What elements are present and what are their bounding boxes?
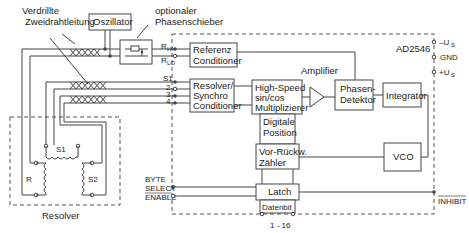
svg-text:Integrator: Integrator	[386, 90, 427, 101]
resolver-label: Resolver	[42, 210, 80, 221]
svg-text:Vor-Rückw.: Vor-Rückw.	[259, 146, 307, 157]
resolver-to-digital-diagram: S1 R S2 Resolver Oszillator Verdrillte Z…	[0, 0, 469, 233]
svg-text:–U: –U	[439, 38, 449, 47]
svg-text:S1: S1	[163, 74, 173, 83]
coil-r-label: R	[26, 175, 32, 184]
svg-text:Zähler: Zähler	[259, 157, 286, 168]
coil-s2-label: S2	[88, 175, 98, 184]
chip-label: AD2546	[396, 43, 430, 54]
svg-text:Detektor: Detektor	[340, 94, 376, 105]
svg-text:Amplifier: Amplifier	[301, 65, 338, 76]
svg-text:Latch: Latch	[268, 186, 291, 197]
svg-text:Conditioner: Conditioner	[193, 55, 242, 66]
svg-text:SELECT: SELECT	[145, 184, 176, 193]
svg-text:Zweidrahtleitung: Zweidrahtleitung	[25, 16, 95, 27]
svg-text:Digitale: Digitale	[263, 116, 295, 127]
coil-s1-label: S1	[56, 145, 66, 154]
svg-text:GND: GND	[440, 53, 458, 62]
svg-text:Position: Position	[263, 127, 297, 138]
svg-text:Datenbit: Datenbit	[262, 203, 293, 212]
svg-text:+U: +U	[439, 68, 450, 77]
phase-shifter-block	[120, 40, 152, 64]
svg-text:Oszillator: Oszillator	[93, 16, 133, 27]
inhibit-label: INHIBIT	[438, 197, 467, 206]
svg-text:4: 4	[166, 97, 171, 106]
svg-text:S: S	[451, 72, 455, 78]
svg-text:S: S	[451, 42, 455, 48]
svg-text:Referenz: Referenz	[193, 44, 232, 55]
svg-text:Phasen-: Phasen-	[340, 83, 375, 94]
svg-text:Phasenschieber: Phasenschieber	[155, 16, 223, 27]
svg-text:BYTE: BYTE	[145, 175, 166, 184]
amplifier-symbol	[310, 87, 324, 107]
svg-text:HI: HI	[167, 46, 173, 52]
svg-text:Multiplizierer: Multiplizierer	[255, 102, 308, 113]
svg-text:optionaler: optionaler	[155, 5, 197, 16]
resolver-boundary	[10, 117, 120, 205]
svg-text:VCO: VCO	[393, 151, 414, 162]
svg-text:LO: LO	[167, 60, 175, 66]
svg-text:Verdrillte: Verdrillte	[22, 5, 59, 16]
byte-select-pin[interactable]	[171, 185, 175, 189]
enable-pin[interactable]	[171, 194, 175, 198]
databits-label: 1 - 16	[270, 221, 291, 230]
